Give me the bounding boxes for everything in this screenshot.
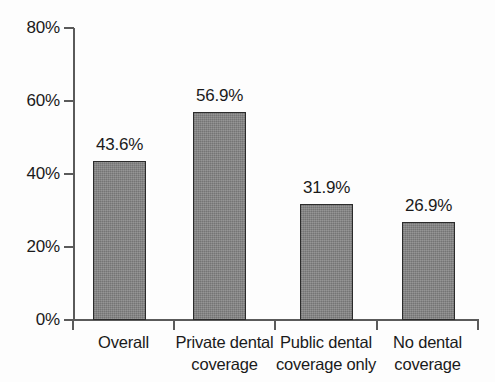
bar [193, 112, 246, 320]
bar-value-label: 26.9% [384, 196, 474, 215]
x-axis-category-label-line: coverage [174, 353, 275, 375]
x-axis-category-label-line: Public dental [275, 331, 377, 353]
bar [300, 204, 353, 320]
x-axis-category-label-line: coverage [377, 353, 478, 375]
x-axis-category-label-line: Private dental [174, 331, 275, 353]
x-axis-category-label-line: Overall [73, 331, 174, 353]
x-axis-category-label: No dentalcoverage [377, 331, 478, 375]
plot-area: 43.6%Overall56.9%Private dentalcoverage3… [0, 0, 495, 382]
x-axis-category-label-line: coverage only [275, 353, 377, 375]
bar [402, 222, 455, 320]
x-axis-category-label: Overall [73, 331, 174, 353]
x-axis-category-label: Public dentalcoverage only [275, 331, 377, 375]
bar [93, 161, 146, 320]
bar-value-label: 31.9% [282, 178, 372, 197]
x-axis-category-label: Private dentalcoverage [174, 331, 275, 375]
bar-chart: 0%20%40%60%80% 43.6%Overall56.9%Private … [0, 0, 495, 382]
bar-value-label: 43.6% [75, 135, 165, 154]
bar-value-label: 56.9% [175, 86, 265, 105]
x-axis-category-label-line: No dental [377, 331, 478, 353]
